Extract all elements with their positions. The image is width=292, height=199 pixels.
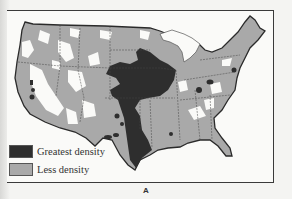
- legend-label: Less density: [37, 164, 89, 175]
- less-density-swatch: [9, 163, 33, 176]
- figure-caption: A: [0, 186, 292, 195]
- legend-item-less: Less density: [9, 161, 105, 177]
- greatest-density-swatch: [9, 145, 33, 158]
- legend-item-greatest: Greatest density: [9, 143, 105, 159]
- legend-label: Greatest density: [37, 146, 105, 157]
- map-legend: Greatest density Less density: [9, 143, 105, 179]
